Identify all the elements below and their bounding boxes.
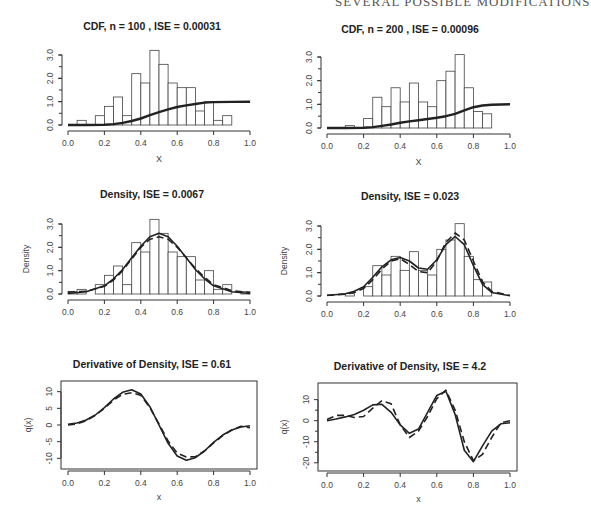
histogram-bar xyxy=(223,116,232,125)
estimate-curve-dashed xyxy=(327,390,510,461)
panel-title: CDF, n = 200 , ISE = 0.00096 xyxy=(341,23,479,35)
y-axis: -20-10010 xyxy=(301,395,318,469)
x-tick-label: 0.4 xyxy=(135,138,147,148)
histogram-bar xyxy=(114,97,123,125)
histogram-bar xyxy=(195,280,204,294)
histogram-bar xyxy=(382,275,391,296)
histogram-bar xyxy=(373,266,382,296)
y-tick-label: 3.0 xyxy=(45,218,55,230)
y-tick-label: 1.0 xyxy=(304,266,314,278)
panel-density100: Density, ISE = 0.00670.00.20.40.60.81.00… xyxy=(21,188,256,317)
y-axis: 0.01.02.03.0 xyxy=(45,218,62,300)
x-tick-label: 1.0 xyxy=(504,309,516,319)
histogram-bar xyxy=(177,257,186,294)
x-tick-label: 0.2 xyxy=(358,480,370,490)
true-curve-solid xyxy=(327,391,510,462)
x-tick-label: 0.0 xyxy=(62,307,74,317)
x-tick-label: 1.0 xyxy=(504,141,516,151)
x-tick-label: 0.8 xyxy=(467,309,479,319)
histogram-bar xyxy=(159,233,168,294)
x-tick-label: 0.6 xyxy=(171,478,183,488)
y-axis: 0.01.02.03.0 xyxy=(304,220,321,302)
true-curve-solid xyxy=(68,390,250,461)
x-tick-label: 0.6 xyxy=(431,309,443,319)
panel-cdf200: CDF, n = 200 , ISE = 0.000960.00.20.40.6… xyxy=(304,23,516,167)
x-axis: 0.00.20.40.60.81.0 xyxy=(62,131,256,148)
x-tick-label: 0.6 xyxy=(431,141,443,151)
y-tick-label: 0 xyxy=(301,418,311,423)
x-tick-label: 0.4 xyxy=(135,478,147,488)
x-tick-label: 0.2 xyxy=(358,141,370,151)
x-tick-label: 0.2 xyxy=(98,478,110,488)
x-tick-label: 0.0 xyxy=(62,138,74,148)
y-tick-label: -5 xyxy=(44,438,54,446)
histogram-bar xyxy=(123,285,132,294)
histogram-bar xyxy=(132,243,141,294)
y-tick-label: 10 xyxy=(44,387,54,397)
x-axis: 0.00.20.40.60.81.0 xyxy=(62,471,256,488)
histogram-bar xyxy=(150,219,159,294)
x-axis-label: X xyxy=(156,154,162,164)
x-tick-label: 1.0 xyxy=(244,138,256,148)
histogram-bar xyxy=(214,289,223,294)
y-tick-label: 2.0 xyxy=(45,241,55,253)
y-tick-label: 0.0 xyxy=(304,290,314,302)
histogram-bar xyxy=(95,116,104,125)
y-tick-label: 0.0 xyxy=(304,122,314,134)
x-axis: 0.00.20.40.60.81.0 xyxy=(321,134,516,151)
x-tick-label: 0.0 xyxy=(321,480,333,490)
y-axis-label: q(x) xyxy=(279,420,289,435)
histogram-bar xyxy=(446,240,455,296)
y-tick-label: -10 xyxy=(44,452,54,465)
y-tick-label: -10 xyxy=(301,435,311,448)
y-tick-label: 0 xyxy=(44,422,54,427)
x-tick-label: 0.6 xyxy=(171,307,183,317)
y-tick-label: 2.0 xyxy=(304,243,314,255)
x-tick-label: 0.8 xyxy=(208,478,220,488)
histogram-bar xyxy=(419,270,428,296)
x-tick-label: 0.8 xyxy=(467,141,479,151)
panel-title: Derivative of Density, ISE = 4.2 xyxy=(334,360,487,372)
histogram-bar xyxy=(455,55,464,128)
histogram-bar xyxy=(159,64,168,125)
histogram-bar xyxy=(373,97,382,128)
x-axis-label: x xyxy=(416,494,421,504)
histogram-bar xyxy=(205,102,214,125)
x-tick-label: 0.8 xyxy=(208,138,220,148)
x-tick-label: 1.0 xyxy=(244,307,256,317)
y-axis-label: q(x) xyxy=(23,418,33,433)
x-tick-label: 0.8 xyxy=(467,480,479,490)
histogram-bar xyxy=(214,120,223,125)
panel-deriv200: Derivative of Density, ISE = 4.20.00.20.… xyxy=(279,360,517,504)
panel-cdf100: CDF, n = 100 , ISE = 0.000310.00.20.40.6… xyxy=(45,20,256,164)
y-tick-label: 0.0 xyxy=(45,288,55,300)
histogram-bar xyxy=(446,71,455,128)
histogram-bar xyxy=(473,111,482,128)
x-axis-label: x xyxy=(157,492,162,502)
y-tick-label: 5 xyxy=(44,406,54,411)
y-axis-label: Density xyxy=(21,244,31,273)
plot-frame xyxy=(318,383,517,471)
y-tick-label: 2.0 xyxy=(304,74,314,86)
histogram-bar xyxy=(168,83,177,125)
histogram-bar xyxy=(428,275,437,296)
panel-title: Derivative of Density, ISE = 0.61 xyxy=(73,358,231,370)
histogram-bar xyxy=(400,102,409,128)
y-tick-label: -20 xyxy=(301,456,311,469)
y-axis-label: Density xyxy=(279,246,289,275)
x-tick-label: 1.0 xyxy=(244,478,256,488)
x-tick-label: 0.0 xyxy=(321,309,333,319)
x-tick-label: 0.4 xyxy=(394,480,406,490)
y-tick-label: 10 xyxy=(301,395,311,405)
histogram-bar xyxy=(483,114,492,128)
y-tick-label: 2.0 xyxy=(45,72,55,84)
y-axis: 0.01.02.03.0 xyxy=(304,51,321,134)
histogram-bars xyxy=(68,219,250,294)
histogram-bar xyxy=(168,252,177,294)
panel-density200: Density, ISE = 0.0230.00.20.40.60.81.00.… xyxy=(279,190,516,319)
histogram-bar xyxy=(419,102,428,128)
x-tick-label: 0.0 xyxy=(321,141,333,151)
y-tick-label: 1.0 xyxy=(304,98,314,110)
x-tick-label: 0.6 xyxy=(431,480,443,490)
